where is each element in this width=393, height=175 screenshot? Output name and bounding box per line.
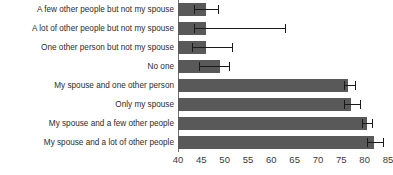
category-label: My spouse and a lot of other people <box>44 133 174 152</box>
error-bar-cap <box>232 43 233 52</box>
error-bar <box>362 123 371 124</box>
category-label: A lot of other people but not my spouse <box>32 19 174 38</box>
bar-row <box>178 95 388 114</box>
value-axis-tick-labels: 40455055606570758085 <box>178 154 388 174</box>
error-bar <box>194 9 217 10</box>
bar-row <box>178 114 388 133</box>
tick-label: 80 <box>359 154 370 165</box>
error-bar <box>344 85 356 86</box>
tick-label: 60 <box>266 154 277 165</box>
error-bar <box>194 28 285 29</box>
error-bar-cap <box>285 24 286 33</box>
category-label: One other person but not my spouse <box>41 38 174 57</box>
bar-row <box>178 0 388 19</box>
error-bar-cap <box>362 119 363 128</box>
tick-label: 40 <box>173 154 184 165</box>
error-bar-cap <box>367 138 368 147</box>
category-label: My spouse and one other person <box>54 76 174 95</box>
error-bar-cap <box>344 81 345 90</box>
tick-label: 75 <box>336 154 347 165</box>
bar <box>178 117 367 130</box>
error-bar <box>192 47 232 48</box>
bar-row <box>178 57 388 76</box>
category-label: My spouse and a few other people <box>49 114 174 133</box>
tick-label: 85 <box>383 154 393 165</box>
error-bar-cap <box>360 100 361 109</box>
error-bar-cap <box>344 100 345 109</box>
error-bar-cap <box>194 24 195 33</box>
tick-label: 55 <box>243 154 254 165</box>
error-bar <box>199 66 229 67</box>
error-bar-cap <box>194 5 195 14</box>
error-bar <box>367 142 383 143</box>
tick-label: 65 <box>289 154 300 165</box>
category-label: A few other people but not my spouse <box>37 0 174 19</box>
plot-area <box>178 0 388 152</box>
error-bar-cap <box>218 5 219 14</box>
error-bar-cap <box>372 119 373 128</box>
bar-row <box>178 76 388 95</box>
error-bar-cap <box>383 138 384 147</box>
tick-label: 50 <box>219 154 230 165</box>
error-bar-cap <box>192 43 193 52</box>
bar <box>178 98 351 111</box>
bar-row <box>178 19 388 38</box>
tick-label: 45 <box>196 154 207 165</box>
category-label: No one <box>148 57 174 76</box>
bar-row <box>178 133 388 152</box>
bar <box>178 136 374 149</box>
tick-label: 70 <box>313 154 324 165</box>
bar-row <box>178 38 388 57</box>
error-bar-cap <box>355 81 356 90</box>
category-label: Only my spouse <box>115 95 174 114</box>
category-axis-labels: A few other people but not my spouse A l… <box>0 0 174 152</box>
error-bar-cap <box>229 62 230 71</box>
bar <box>178 79 348 92</box>
error-bar <box>344 104 360 105</box>
error-bar-cap <box>199 62 200 71</box>
